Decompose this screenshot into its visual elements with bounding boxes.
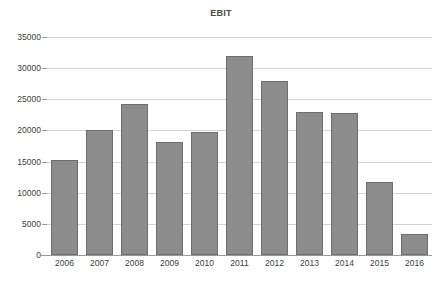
y-tick-label: 20000 <box>0 125 41 135</box>
x-tick-label: 2007 <box>82 258 117 268</box>
x-tick-label: 2011 <box>222 258 257 268</box>
bar <box>156 142 183 255</box>
y-tick-label: 25000 <box>0 94 41 104</box>
bar <box>191 132 218 255</box>
bar <box>226 56 253 255</box>
x-tick-label: 2012 <box>257 258 292 268</box>
y-tick-label: 30000 <box>0 63 41 73</box>
bar <box>261 81 288 255</box>
bar <box>366 182 393 255</box>
bars-container <box>47 0 432 255</box>
bar <box>121 104 148 255</box>
bar <box>401 234 428 255</box>
bar <box>296 112 323 255</box>
y-tick-label: 35000 <box>0 32 41 42</box>
y-axis-labels: 05000100001500020000250003000035000 <box>0 0 41 288</box>
y-tick-label: 15000 <box>0 157 41 167</box>
x-axis-labels: 2006200720082009201020112012201320142015… <box>47 258 432 278</box>
x-tick-label: 2016 <box>397 258 432 268</box>
y-tick-label: 0 <box>0 250 41 260</box>
x-tick-label: 2009 <box>152 258 187 268</box>
x-axis-baseline <box>41 255 432 256</box>
bar <box>51 160 78 255</box>
bar <box>86 130 113 255</box>
ebit-bar-chart: EBIT 05000100001500020000250003000035000… <box>0 0 442 288</box>
x-tick-label: 2008 <box>117 258 152 268</box>
y-tick-label: 5000 <box>0 219 41 229</box>
x-tick-label: 2013 <box>292 258 327 268</box>
x-tick-label: 2014 <box>327 258 362 268</box>
x-tick-label: 2006 <box>47 258 82 268</box>
bar <box>331 113 358 255</box>
x-tick-label: 2015 <box>362 258 397 268</box>
y-tick-label: 10000 <box>0 188 41 198</box>
x-tick-label: 2010 <box>187 258 222 268</box>
